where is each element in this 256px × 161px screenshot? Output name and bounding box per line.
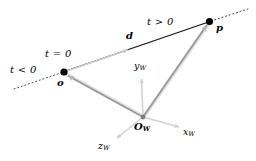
label-world-origin-letter: O	[134, 121, 143, 132]
label-axis-z-subscript: W	[103, 144, 110, 152]
direction-vector-arrow	[64, 50, 128, 72]
label-world-origin-subscript: W	[143, 125, 150, 133]
label-direction-d: d	[126, 31, 133, 41]
label-axis-z: zW	[98, 141, 110, 152]
point-o-marker	[60, 68, 67, 75]
label-world-origin: OW	[134, 122, 150, 133]
label-point-p: p	[216, 23, 223, 33]
point-p-marker	[206, 18, 213, 25]
label-axis-y-subscript: W	[139, 64, 146, 72]
label-axis-x: xW	[183, 127, 195, 138]
label-t-positive: t > 0	[147, 17, 174, 27]
vector-to-o	[69, 76, 144, 117]
world-origin-marker	[141, 115, 146, 120]
ray-forward-dotted-extension	[211, 9, 248, 21]
ray-diagram-figure: t < 0 t = 0 t > 0 o d p OW xW yW zW	[0, 0, 256, 161]
label-axis-x-subscript: W	[188, 130, 195, 138]
label-ray-origin-o: o	[57, 78, 64, 88]
axis-y-line	[142, 79, 144, 117]
label-t-zero: t = 0	[45, 49, 72, 59]
label-t-negative: t < 0	[10, 65, 37, 75]
label-axis-y: yW	[134, 61, 146, 72]
vector-to-p	[143, 26, 207, 118]
